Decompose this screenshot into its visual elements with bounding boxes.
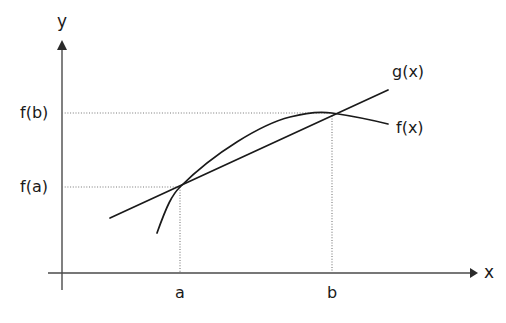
curve-label-gx: g(x)	[392, 64, 424, 80]
tick-label-a: a	[175, 285, 185, 301]
y-axis-arrowhead	[57, 40, 67, 50]
y-axis-label: y	[57, 13, 67, 30]
figure-canvas: y x a b f(a) f(b) g(x) f(x)	[0, 0, 506, 323]
secant-line-gx	[110, 90, 388, 218]
curve-label-fx: f(x)	[396, 120, 424, 136]
tick-label-b: b	[327, 285, 337, 301]
x-axis-arrowhead	[470, 268, 478, 278]
diagram-svg	[0, 0, 506, 323]
function-curve-fx	[157, 112, 388, 233]
value-label-fb: f(b)	[20, 105, 48, 121]
x-axis-label: x	[484, 264, 494, 281]
value-label-fa: f(a)	[20, 179, 48, 195]
